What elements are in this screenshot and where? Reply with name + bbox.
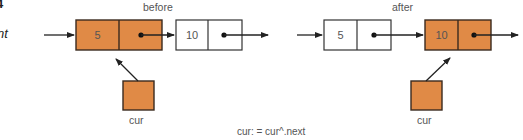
before-cur-label: cur (129, 114, 144, 126)
after-cur-label: cur (417, 114, 432, 126)
node-value: 10 (435, 29, 447, 41)
after-diagram: 5 10 (297, 20, 518, 110)
cur-pointer-box (123, 81, 154, 110)
cur-arrow-icon (116, 59, 138, 81)
before-diagram: 5 10 (44, 20, 268, 110)
cur-arrow-icon (426, 58, 450, 81)
diagram-caption: cur: = cur^.next (237, 126, 305, 137)
node-value: 10 (186, 29, 198, 41)
linked-list-diagram: 5 10 5 10 (0, 0, 523, 140)
cur-pointer-box (411, 81, 442, 110)
node-value: 5 (94, 29, 100, 41)
node-value: 5 (337, 29, 343, 41)
